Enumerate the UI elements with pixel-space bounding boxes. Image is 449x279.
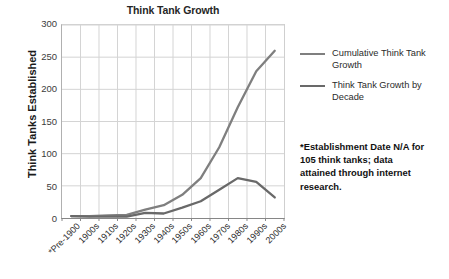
y-tick-label: 250 xyxy=(27,52,57,62)
legend-label: Think Tank Growth by Decade xyxy=(332,80,444,103)
legend-line-icon xyxy=(300,80,325,91)
y-tick-label: 50 xyxy=(27,182,57,192)
y-axis-tick-labels: 300250200150100500 xyxy=(24,24,57,219)
legend-line-icon xyxy=(300,48,325,59)
series-line xyxy=(71,51,275,216)
series-line xyxy=(71,178,275,217)
legend-label: Cumulative Think Tank Growth xyxy=(332,48,444,71)
footnote-text: *Establishment Date N/A for 105 think ta… xyxy=(300,140,430,193)
y-tick-label: 150 xyxy=(27,117,57,127)
chart-figure: Think Tank Growth Think Tanks Establishe… xyxy=(0,0,449,279)
data-series-lines xyxy=(62,25,284,218)
chart-legend: Cumulative Think Tank GrowthThink Tank G… xyxy=(300,48,448,112)
y-tick-label: 200 xyxy=(27,84,57,94)
y-tick-label: 300 xyxy=(27,19,57,29)
y-tick-label: 0 xyxy=(27,214,57,224)
legend-item[interactable]: Cumulative Think Tank Growth xyxy=(300,48,448,71)
chart-title: Think Tank Growth xyxy=(61,4,285,16)
x-axis-tick-labels: *Pre-19001900s1910s1920s1930s1940s1950s1… xyxy=(61,221,285,277)
plot-area xyxy=(61,24,285,219)
legend-item[interactable]: Think Tank Growth by Decade xyxy=(300,80,448,103)
x-tick-label: 1900s xyxy=(77,221,101,245)
y-tick-label: 100 xyxy=(27,149,57,159)
